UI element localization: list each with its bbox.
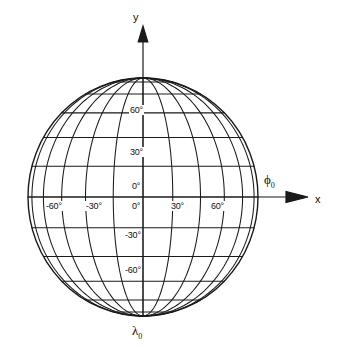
lambda-zero-label: λ0 — [132, 324, 142, 344]
y-axis-arrowhead — [138, 26, 148, 42]
x-axis-label: x — [315, 193, 321, 205]
y-axis-label: y — [133, 11, 139, 23]
x-axis-arrowhead — [286, 192, 308, 203]
meridian-label-minus60: -60° — [45, 201, 63, 211]
phi-subscript: 0 — [271, 181, 275, 190]
parallel-label-60: 60° — [129, 105, 144, 115]
parallel-label-minus60: -60° — [124, 265, 142, 275]
parallel-label-minus30: -30° — [124, 230, 142, 240]
projection-figure: y x ϕ0 λ0 60° 30° 0° -30° -60° -60° -30°… — [0, 0, 338, 354]
meridian-label-60: 60° — [210, 201, 225, 211]
meridian-label-minus30: -30° — [85, 201, 103, 211]
meridian-label-0: 0° — [131, 201, 141, 211]
parallel-label-0: 0° — [131, 181, 141, 191]
parallel-label-30: 30° — [129, 147, 144, 157]
globe-graticule-svg — [0, 0, 338, 354]
meridian-label-30: 30° — [170, 201, 185, 211]
lambda-subscript: 0 — [138, 332, 142, 341]
phi-zero-label: ϕ0 — [264, 173, 275, 193]
phi-glyph: ϕ — [264, 172, 271, 187]
